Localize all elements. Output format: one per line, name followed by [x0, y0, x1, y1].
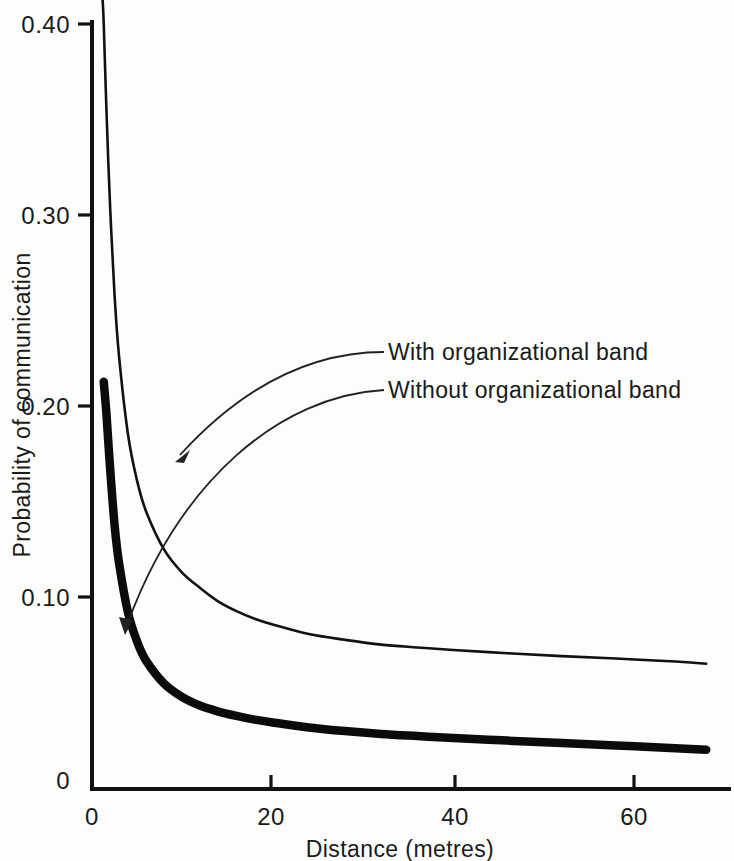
x-tick-label-1: 20: [257, 803, 285, 830]
x-axis-title: Distance (metres): [306, 836, 494, 861]
curve-without-organizational-band: [104, 382, 707, 750]
curve-with-organizational-band: [103, 0, 707, 664]
x-tick-label-3: 60: [620, 803, 648, 830]
data-curves: [103, 0, 707, 750]
y-tick-label-4: 0: [56, 767, 70, 794]
x-tick-label-0: 0: [85, 803, 99, 830]
leader-line-without-band: [127, 390, 384, 625]
annotation-leaders: [119, 352, 384, 635]
y-tick-label-0: 0.40: [21, 11, 70, 38]
chart-canvas: 0.40 0.30 0.20 0.10 0 0 20 40 60 Distanc…: [0, 0, 734, 861]
y-axis-title: Probability of communication: [9, 252, 35, 557]
chart-figure: 0.40 0.30 0.20 0.10 0 0 20 40 60 Distanc…: [0, 0, 734, 861]
axis-group: [78, 22, 729, 789]
y-tick-label-3: 0.10: [21, 584, 70, 611]
y-tick-label-1: 0.30: [21, 202, 70, 229]
leader-line-with-band: [180, 352, 384, 455]
x-tick-labels: 0 20 40 60: [85, 803, 648, 830]
annotation-label-without-band: Without organizational band: [388, 377, 681, 403]
annotation-label-with-band: With organizational band: [388, 339, 648, 365]
x-tick-label-2: 40: [441, 803, 469, 830]
